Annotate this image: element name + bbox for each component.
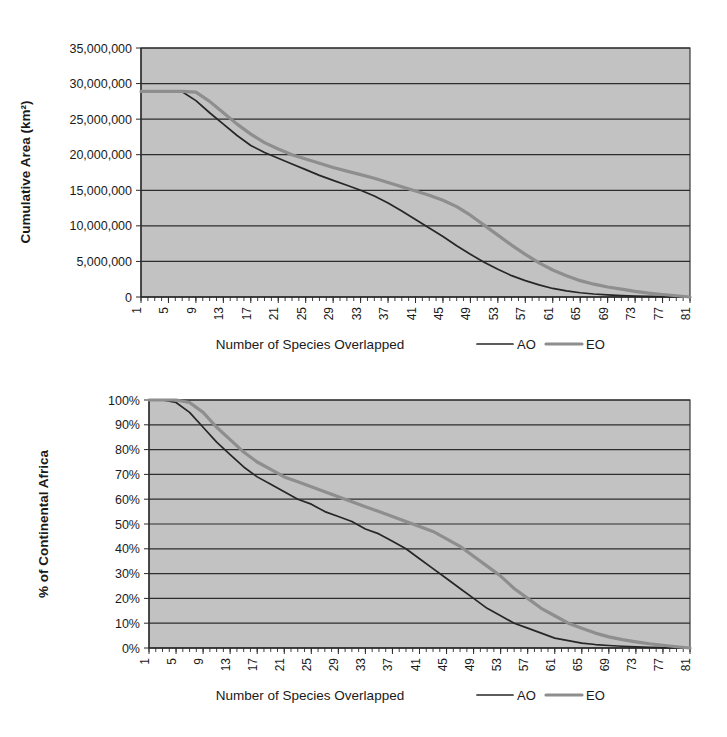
x-tick-label: 61 (544, 658, 558, 672)
x-tick-label: 37 (377, 307, 391, 321)
x-tick-label: 17 (246, 658, 260, 672)
x-tick-label: 1 (130, 307, 144, 314)
x-axis-label-top: Number of Species Overlapped (216, 337, 404, 352)
y-axis-bottom: 0%10%20%30%40%50%60%70%80%90%100% (108, 394, 149, 656)
figure-page: 05,000,00010,000,00015,000,00020,000,000… (0, 0, 727, 737)
x-tick-label: 25 (295, 307, 309, 321)
y-tick-label: 50% (115, 518, 140, 532)
y-tick-label: 20,000,000 (69, 148, 132, 162)
legend-label-eo: EO (586, 337, 605, 352)
legend-label-ao: AO (517, 337, 536, 352)
y-tick-label: 20% (115, 592, 140, 606)
legend-label-eo: EO (586, 688, 605, 703)
chart-top-svg: 05,000,00010,000,00015,000,00020,000,000… (0, 0, 727, 370)
x-tick-label: 81 (679, 307, 693, 321)
y-axis-label-bottom: % of Continental Africa (36, 450, 51, 598)
x-tick-label: 21 (267, 307, 281, 321)
x-tick-label: 17 (240, 307, 254, 321)
y-tick-label: 30,000,000 (69, 77, 132, 91)
chart-percent-africa: 0%10%20%30%40%50%60%70%80%90%100% 159131… (0, 355, 727, 737)
x-tick-label: 29 (327, 658, 341, 672)
y-tick-label: 15,000,000 (69, 184, 132, 198)
y-tick-label: 60% (115, 493, 140, 507)
legend-bottom: AO EO (477, 688, 605, 703)
x-tick-label: 13 (219, 658, 233, 672)
x-tick-label: 61 (542, 307, 556, 321)
x-axis-label-bottom: Number of Species Overlapped (216, 688, 404, 703)
x-tick-label: 33 (350, 307, 364, 321)
y-tick-label: 10% (115, 617, 140, 631)
x-tick-label: 65 (569, 307, 583, 321)
chart-bottom-svg: 0%10%20%30%40%50%60%70%80%90%100% 159131… (0, 355, 727, 737)
y-axis-label-top: Cumulative Area (km²) (18, 101, 33, 244)
plot-background (141, 48, 690, 297)
x-tick-label: 69 (597, 307, 611, 321)
x-tick-label: 9 (185, 307, 199, 314)
x-tick-label: 9 (192, 658, 206, 665)
x-tick-label: 29 (322, 307, 336, 321)
y-tick-label: 25,000,000 (69, 113, 132, 127)
y-tick-label: 90% (115, 418, 140, 432)
plot-area-top (141, 48, 690, 297)
x-tick-label: 73 (624, 307, 638, 321)
x-tick-label: 65 (571, 658, 585, 672)
x-tick-label: 21 (273, 658, 287, 672)
x-tick-label: 73 (625, 658, 639, 672)
x-tick-label: 77 (652, 307, 666, 321)
x-tick-label: 49 (463, 658, 477, 672)
y-tick-label: 100% (108, 394, 140, 408)
y-tick-label: 30% (115, 567, 140, 581)
x-tick-label: 37 (381, 658, 395, 672)
legend-top: AO EO (477, 337, 605, 352)
y-tick-label: 40% (115, 542, 140, 556)
x-tick-label: 25 (300, 658, 314, 672)
scan-artifact (0, 719, 727, 733)
x-axis-top: 159131721252933374145495357616569737781 (130, 297, 693, 320)
y-tick-label: 10,000,000 (69, 219, 132, 233)
x-tick-label: 45 (432, 307, 446, 321)
x-tick-label: 33 (354, 658, 368, 672)
x-tick-label: 69 (598, 658, 612, 672)
x-tick-label: 13 (212, 307, 226, 321)
x-tick-label: 1 (138, 658, 152, 665)
y-tick-label: 5,000,000 (76, 255, 132, 269)
x-tick-label: 41 (405, 307, 419, 321)
x-tick-label: 53 (490, 658, 504, 672)
y-tick-label: 35,000,000 (69, 42, 132, 56)
x-tick-label: 77 (652, 658, 666, 672)
chart-cumulative-area: 05,000,00010,000,00015,000,00020,000,000… (0, 0, 727, 370)
x-tick-label: 49 (459, 307, 473, 321)
y-axis-top: 05,000,00010,000,00015,000,00020,000,000… (69, 42, 141, 305)
x-tick-label: 45 (436, 658, 450, 672)
x-tick-label: 5 (165, 658, 179, 665)
x-tick-label: 5 (157, 307, 171, 314)
x-tick-label: 57 (517, 658, 531, 672)
x-tick-label: 81 (679, 658, 693, 672)
y-tick-label: 70% (115, 468, 140, 482)
y-tick-label: 0% (122, 642, 140, 656)
y-tick-label: 80% (115, 443, 140, 457)
x-tick-label: 41 (409, 658, 423, 672)
x-tick-label: 57 (514, 307, 528, 321)
x-tick-label: 53 (487, 307, 501, 321)
x-axis-bottom: 159131721252933374145495357616569737781 (138, 648, 693, 671)
y-tick-label: 0 (125, 291, 132, 305)
plot-area-bottom (149, 400, 690, 648)
legend-label-ao: AO (517, 688, 536, 703)
